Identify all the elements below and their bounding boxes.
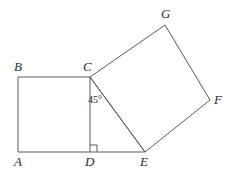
vertex-label-a: A bbox=[14, 155, 22, 168]
vertex-label-b: B bbox=[14, 60, 22, 73]
vertex-label-e: E bbox=[140, 155, 148, 168]
square-cgfe-outline bbox=[90, 25, 210, 152]
geometry-figure: A B C D E F G 45° bbox=[0, 0, 241, 174]
vertex-label-c: C bbox=[83, 60, 92, 73]
right-angle-marker-at-d bbox=[90, 145, 97, 152]
vertex-label-f: F bbox=[214, 93, 222, 106]
figure-canvas bbox=[0, 0, 241, 174]
square-abcd-outline bbox=[18, 77, 90, 152]
angle-label-45-degrees: 45° bbox=[88, 95, 102, 105]
vertex-label-g: G bbox=[161, 7, 170, 20]
segment-ce-diagonal bbox=[90, 77, 145, 152]
vertex-label-d: D bbox=[85, 155, 94, 168]
